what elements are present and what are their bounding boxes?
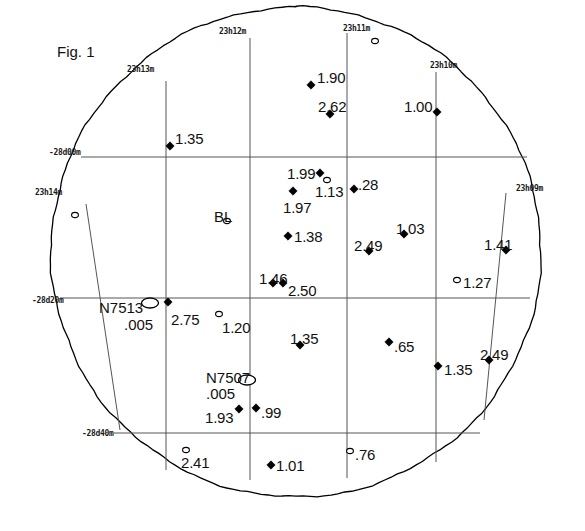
point-value-label-22: .99 <box>261 405 281 420</box>
source-marker-0 <box>166 142 174 150</box>
source-marker-25 <box>347 448 354 453</box>
named-object-marker-1 <box>142 298 159 308</box>
ra-tick-label-3: 23h11m <box>343 25 370 33</box>
point-value-label-2: 2.62 <box>318 99 346 114</box>
object-name-label-2: N7507 <box>206 370 250 385</box>
point-value-label-13: 2.50 <box>288 283 316 298</box>
dec-tick-label-0: -28d00m <box>49 149 81 157</box>
point-value-label-3: 1.00 <box>404 99 432 114</box>
source-marker-15 <box>164 298 172 306</box>
object-value-label-1: .005 <box>124 317 153 332</box>
source-markers <box>72 38 511 469</box>
source-marker-27 <box>72 212 79 217</box>
source-marker-3 <box>433 108 441 116</box>
point-value-label-5: 1.13 <box>315 184 343 199</box>
source-marker-8 <box>284 232 292 240</box>
source-marker-4 <box>316 169 324 177</box>
source-marker-18 <box>385 338 393 346</box>
source-marker-6 <box>289 187 297 195</box>
dec-tick-label-1: -28d20m <box>32 297 64 305</box>
source-marker-24 <box>267 461 275 469</box>
point-value-label-19: 1.35 <box>444 362 472 377</box>
point-value-label-14: 1.27 <box>463 275 491 290</box>
ra-gridline-0 <box>86 204 120 430</box>
field-boundary-circle <box>50 6 541 497</box>
finding-chart: Fig. 1 1.351.902.621.001.991.131.97.281.… <box>0 0 585 531</box>
source-marker-19 <box>434 362 442 370</box>
source-marker-14 <box>454 277 461 282</box>
point-value-label-24: 1.01 <box>276 458 304 473</box>
object-name-label-1: N7513 <box>99 300 143 315</box>
source-marker-23 <box>183 447 190 452</box>
ra-gridline-5 <box>484 193 506 420</box>
field-boundary-path <box>50 6 541 497</box>
point-value-label-18: .65 <box>394 339 414 354</box>
point-value-label-0: 1.35 <box>175 131 203 146</box>
point-value-label-25: .76 <box>355 447 375 462</box>
ra-tick-label-1: 23h13m <box>127 66 154 74</box>
object-value-label-2: .005 <box>206 386 235 401</box>
chart-canvas <box>0 0 585 531</box>
point-value-label-8: 1.38 <box>294 229 322 244</box>
point-value-label-21: 1.93 <box>205 410 233 425</box>
point-value-label-12: 1.46 <box>259 271 287 286</box>
point-value-label-10: 1.03 <box>396 221 424 236</box>
point-value-label-16: 1.20 <box>222 320 250 335</box>
object-name-label-0: BL <box>214 209 232 224</box>
point-value-label-15: 2.75 <box>171 312 199 327</box>
point-value-label-7: .28 <box>358 177 378 192</box>
source-marker-26 <box>372 38 379 43</box>
ra-gridlines <box>86 33 506 480</box>
ra-tick-label-2: 23h12m <box>219 28 246 36</box>
figure-caption: Fig. 1 <box>57 44 95 59</box>
point-value-label-17: 1.35 <box>290 331 318 346</box>
point-value-label-9: 2.49 <box>354 238 382 253</box>
source-marker-1 <box>307 81 315 89</box>
source-marker-7 <box>350 185 358 193</box>
point-value-label-6: 1.97 <box>283 200 311 215</box>
ra-tick-label-4: 23h10m <box>430 62 457 70</box>
named-object-markers <box>142 218 256 385</box>
ra-tick-label-5: 23h09m <box>516 185 543 193</box>
source-marker-21 <box>235 405 243 413</box>
dec-tick-label-2: -28d40m <box>82 430 114 438</box>
source-marker-22 <box>252 404 260 412</box>
source-marker-16 <box>216 311 223 316</box>
point-value-label-1: 1.90 <box>317 70 345 85</box>
point-value-label-11: 1.41 <box>484 237 512 252</box>
point-value-label-20: 2.49 <box>480 347 508 362</box>
source-marker-5 <box>324 177 331 182</box>
point-value-label-4: 1.99 <box>287 166 315 181</box>
point-value-label-23: 2.41 <box>181 455 209 470</box>
ra-tick-label-0: 23h14m <box>35 189 62 197</box>
